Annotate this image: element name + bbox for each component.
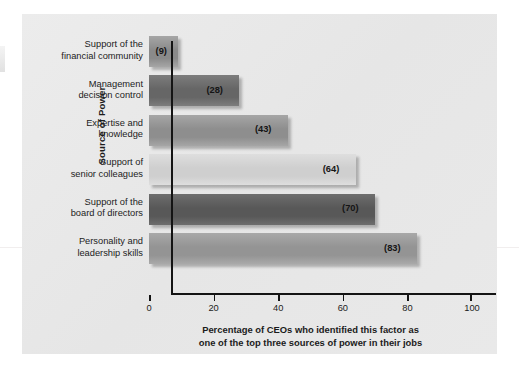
- bar-value-label: (83): [384, 243, 401, 253]
- bar: [149, 233, 417, 264]
- bar-value-label: (64): [323, 164, 340, 174]
- x-axis-tick-label: 80: [402, 303, 412, 313]
- page-edge-artifact-left: [0, 46, 5, 72]
- chart-figure: Source of Power Support of thefinancial …: [0, 0, 519, 368]
- x-axis-title: Percentage of CEOs who identified this f…: [149, 323, 472, 349]
- x-axis-tick: [470, 295, 472, 301]
- x-axis-tick: [149, 295, 151, 301]
- x-axis-tick-label: 0: [146, 303, 151, 313]
- bar-value-label: (9): [156, 46, 167, 56]
- bar-value-label: (70): [342, 203, 359, 213]
- x-axis-tick-label: 20: [208, 303, 218, 313]
- bar-value-label: (28): [206, 85, 223, 95]
- bar-series: (9)(28)(43)(64)(70)(83): [22, 14, 497, 354]
- x-axis-title-line: Percentage of CEOs who identified this f…: [149, 323, 472, 336]
- x-axis-tick: [214, 295, 216, 301]
- x-axis-tick-label: 100: [464, 303, 480, 313]
- x-axis-line: [171, 293, 496, 295]
- x-axis-tick: [407, 295, 409, 301]
- chart-panel: Source of Power Support of thefinancial …: [22, 14, 497, 354]
- x-axis-tick: [278, 295, 280, 301]
- x-axis-title-line: one of the top three sources of power in…: [149, 336, 472, 349]
- y-axis-line: [171, 41, 173, 295]
- x-axis-tick-label: 40: [273, 303, 283, 313]
- bar-value-label: (43): [255, 124, 272, 134]
- bar: [149, 75, 239, 106]
- x-axis-tick-label: 60: [338, 303, 348, 313]
- x-axis-tick: [343, 295, 345, 301]
